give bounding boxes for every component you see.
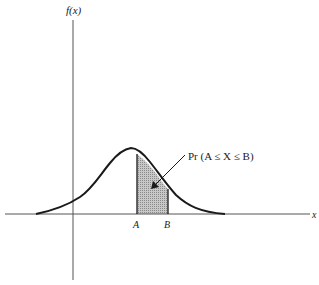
bound-a-label: A — [132, 219, 140, 230]
probability-annotation: Pr (A ≤ X ≤ B) — [188, 150, 254, 163]
y-axis-label: f(x) — [66, 4, 82, 17]
annotation-arrow-line — [155, 155, 185, 185]
density-diagram: f(x) x A B Pr (A ≤ X ≤ B) — [0, 0, 319, 285]
bound-b-label: B — [164, 219, 170, 230]
x-axis-label: x — [311, 209, 317, 220]
